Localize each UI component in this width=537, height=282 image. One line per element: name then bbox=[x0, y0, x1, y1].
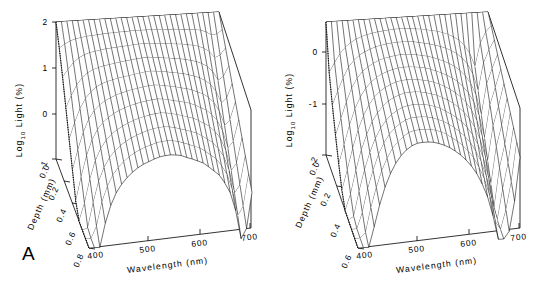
surface-mesh-a bbox=[56, 12, 252, 248]
wl-tick-a-1: 500 bbox=[139, 243, 157, 255]
wl-tick-a-2: 600 bbox=[191, 237, 209, 249]
z-title-b-sub: 10 bbox=[290, 121, 296, 130]
z-title-a-rest: Light (%) bbox=[14, 83, 24, 131]
z-axis-title-b: Log10 Light (%) bbox=[284, 73, 296, 147]
svg-text:Wavelength (nm): Wavelength (nm) bbox=[396, 255, 478, 275]
figure-container: 2 1 0 -1 Log10 Light (%) 0.0 0.2 0.4 0.6… bbox=[0, 0, 537, 282]
z-tick-a-1: 1 bbox=[42, 63, 48, 73]
z-title-a-sub: 10 bbox=[20, 131, 26, 140]
panel-a: 2 1 0 -1 Log10 Light (%) 0.0 0.2 0.4 0.6… bbox=[0, 0, 268, 282]
z-tick-a-0: 2 bbox=[42, 17, 48, 27]
svg-text:Log10 Light (%): Log10 Light (%) bbox=[14, 83, 26, 157]
panel-label-a: A bbox=[22, 243, 35, 265]
z-title-b-main: Log bbox=[284, 130, 294, 148]
wl-tick-b-1: 500 bbox=[408, 243, 426, 255]
depth-tick-a-2: 0.4 bbox=[54, 207, 69, 224]
wl-axis-title-a: Wavelength (nm) bbox=[127, 255, 209, 275]
depth-tick-a-4: 0.8 bbox=[71, 252, 86, 269]
svg-text:Depth (mm): Depth (mm) bbox=[25, 176, 57, 232]
z-title-a-main: Log bbox=[14, 140, 24, 158]
panel-a-plot: 2 1 0 -1 Log10 Light (%) 0.0 0.2 0.4 0.6… bbox=[0, 0, 268, 282]
z-tick-b-0: 0 bbox=[312, 47, 318, 57]
depth-tick-b-1: 0.2 bbox=[318, 191, 333, 208]
wl-tick-b-2: 600 bbox=[460, 237, 478, 249]
z-tick-b-1: -1 bbox=[309, 99, 318, 109]
panel-b-plot: 0 -1 -2 Log10 Light (%) 0.0 0.2 0.4 0.6 … bbox=[268, 0, 537, 282]
wl-tick-b-0: 400 bbox=[356, 249, 374, 261]
wl-tick-b-3: 700 bbox=[510, 231, 528, 243]
svg-text:Log10 Light (%): Log10 Light (%) bbox=[284, 73, 296, 147]
depth-axis-title-a: Depth (mm) bbox=[25, 176, 57, 232]
surface-mesh-b bbox=[326, 12, 520, 248]
z-axis-title-a: Log10 Light (%) bbox=[14, 83, 26, 157]
depth-tick-a-3: 0.6 bbox=[63, 230, 78, 247]
wl-axis-title-b: Wavelength (nm) bbox=[396, 255, 478, 275]
svg-text:Wavelength (nm): Wavelength (nm) bbox=[127, 255, 209, 275]
depth-tick-b-2: 0.4 bbox=[328, 222, 343, 239]
wl-tick-a-0: 400 bbox=[87, 249, 105, 261]
z-tick-a-2: 0 bbox=[42, 109, 48, 119]
depth-tick-b-3: 0.6 bbox=[339, 253, 354, 270]
z-title-b-rest: Light (%) bbox=[284, 73, 294, 121]
panel-b: 0 -1 -2 Log10 Light (%) 0.0 0.2 0.4 0.6 … bbox=[268, 0, 537, 282]
